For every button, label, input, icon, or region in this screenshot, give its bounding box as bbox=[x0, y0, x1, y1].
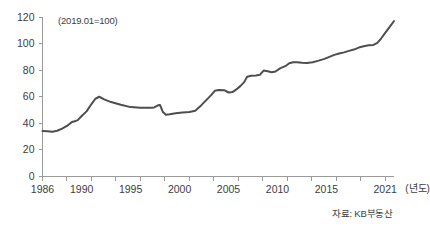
y-tick-label-40: 40 bbox=[0, 118, 35, 129]
x-tick-label-2010: 2010 bbox=[255, 184, 299, 195]
x-axis-ticks bbox=[43, 177, 386, 181]
x-tick-label-2005: 2005 bbox=[207, 184, 251, 195]
y-tick-label-60: 60 bbox=[0, 91, 35, 102]
chart-source-note: 자료: KB부동산 bbox=[332, 206, 393, 220]
x-tick-label-1990: 1990 bbox=[60, 184, 104, 195]
x-tick-label-2021: 2021 bbox=[363, 184, 407, 195]
x-tick-label-2015: 2015 bbox=[304, 184, 348, 195]
y-tick-label-120: 120 bbox=[0, 12, 35, 23]
x-tick-label-1986: 1986 bbox=[21, 184, 65, 195]
y-tick-label-80: 80 bbox=[0, 65, 35, 76]
y-axis-ticks bbox=[39, 17, 43, 177]
y-tick-label-20: 20 bbox=[0, 144, 35, 155]
line-series-housing-price-index bbox=[43, 21, 395, 132]
x-axis-unit-label: (년도) bbox=[405, 184, 430, 194]
y-tick-label-100: 100 bbox=[0, 38, 35, 49]
x-tick-label-2000: 2000 bbox=[158, 184, 202, 195]
chart-axes bbox=[39, 17, 395, 181]
y-tick-label-0: 0 bbox=[0, 171, 35, 182]
x-tick-label-1995: 1995 bbox=[109, 184, 153, 195]
